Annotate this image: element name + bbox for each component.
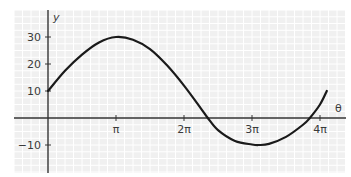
- x-tick-label: 2π: [177, 123, 191, 136]
- y-tick-label: 30: [27, 31, 41, 44]
- x-tick-label: π: [113, 123, 120, 136]
- x-tick-label: 3π: [245, 123, 259, 136]
- y-tick-label: −10: [18, 139, 41, 152]
- x-axis-label: θ: [335, 102, 342, 115]
- x-tick-label: 4π: [313, 123, 327, 136]
- y-axis-label: y: [52, 11, 60, 24]
- y-tick-label: 10: [27, 85, 41, 98]
- y-tick-label: 20: [27, 58, 41, 71]
- sine-curve-chart: π2π3π4π 302010−10 y θ: [0, 0, 351, 177]
